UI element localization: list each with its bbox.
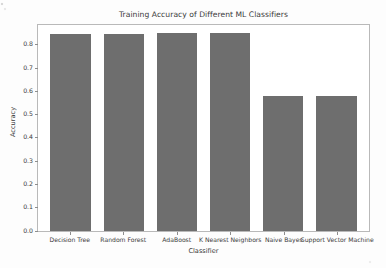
y-tick-label: 0.3 xyxy=(23,157,33,164)
y-tick-label: 0.2 xyxy=(23,180,33,187)
bar-slot xyxy=(97,25,150,231)
y-tick-label: 0.8 xyxy=(23,40,33,47)
y-tick-label: 0.1 xyxy=(23,203,33,210)
plot-area: 0.00.10.20.30.40.50.60.70.8 xyxy=(37,24,370,232)
x-tick-mark xyxy=(177,232,178,235)
bar-slot xyxy=(310,25,363,231)
x-axis-label: Classifier xyxy=(37,247,370,255)
x-tick-label: Decision Tree xyxy=(49,236,90,243)
x-tick-slot: K Nearest Neighbors xyxy=(204,233,258,245)
bar xyxy=(263,96,303,231)
bar xyxy=(104,34,144,231)
y-tick-label: 0.6 xyxy=(23,87,33,94)
x-axis-ticks: Decision TreeRandom ForestAdaBoostK Near… xyxy=(37,233,370,245)
y-tick-label: 0.4 xyxy=(23,133,33,140)
bar xyxy=(316,96,356,231)
bar xyxy=(210,33,250,231)
x-tick-mark xyxy=(70,232,71,235)
bar-slot xyxy=(257,25,310,231)
bar xyxy=(157,33,197,231)
x-tick-label: K Nearest Neighbors xyxy=(199,236,262,243)
x-tick-mark xyxy=(123,232,124,235)
x-tick-slot: AdaBoost xyxy=(150,233,204,245)
y-tick-label: 0.0 xyxy=(23,227,33,234)
bar-slot xyxy=(44,25,97,231)
x-tick-slot: Random Forest xyxy=(97,233,151,245)
x-tick-label: AdaBoost xyxy=(162,236,191,243)
y-tick-label: 0.5 xyxy=(23,110,33,117)
x-tick-mark xyxy=(337,232,338,235)
y-axis-label: Accuracy xyxy=(9,92,17,152)
bar-series xyxy=(38,25,369,231)
bar-slot xyxy=(204,25,257,231)
chart-title: Training Accuracy of Different ML Classi… xyxy=(37,10,370,19)
x-tick-slot: Decision Tree xyxy=(43,233,97,245)
bar-slot xyxy=(150,25,203,231)
x-tick-mark xyxy=(230,232,231,235)
x-tick-slot: Support Vector Machine xyxy=(311,233,365,245)
x-tick-label: Naive Bayes xyxy=(265,236,303,243)
x-tick-label: Random Forest xyxy=(100,236,146,243)
bar xyxy=(50,34,90,231)
matplotlib-figure: Training Accuracy of Different ML Classi… xyxy=(0,0,386,268)
x-tick-mark xyxy=(284,232,285,235)
x-tick-label: Support Vector Machine xyxy=(301,236,374,243)
y-tick-label: 0.7 xyxy=(23,64,33,71)
